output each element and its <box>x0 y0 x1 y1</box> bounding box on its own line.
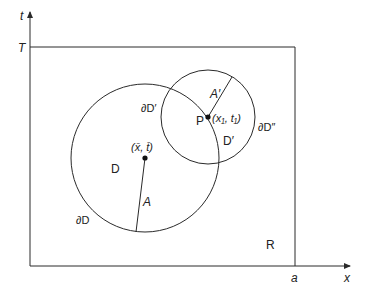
D-label: D <box>111 162 120 176</box>
boundary-D-prime-label: ∂D′ <box>141 102 156 114</box>
x-axis-label: x <box>343 271 351 285</box>
a-label: a <box>291 271 298 285</box>
center-point <box>142 155 147 160</box>
T-label: T <box>18 41 27 55</box>
radius-A-prime-label: A′ <box>209 87 221 101</box>
diagram: t x T a R D ∂D (x̄, t̄) A D′ ∂D′ ∂D″ P (… <box>0 0 373 292</box>
point-P <box>205 114 210 119</box>
boundary-D-label: ∂D <box>76 214 89 226</box>
P-label: P <box>196 114 204 128</box>
region-boundary <box>30 47 295 266</box>
region-label: R <box>266 238 275 252</box>
boundary-D-double-prime-label: ∂D″ <box>258 121 275 133</box>
D-prime-label: D′ <box>223 134 235 148</box>
P-coords-label: (x₁, t₁) <box>212 112 241 124</box>
t-axis-label: t <box>20 9 24 23</box>
center-label: (x̄, t̄) <box>131 141 153 153</box>
radius-A-label: A <box>142 195 151 209</box>
